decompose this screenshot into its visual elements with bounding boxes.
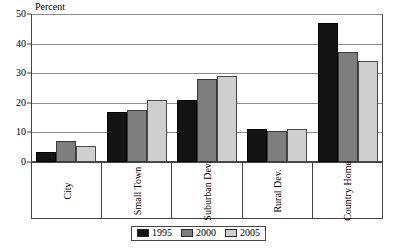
legend-swatch-1995 [137,229,149,237]
category-cell: Country Home [313,163,382,218]
y-tick-label-30: 30 [16,68,26,78]
y-tick-label-40: 40 [16,39,26,49]
y-tick-label-0: 0 [21,157,26,167]
bar[interactable] [247,129,267,162]
bar[interactable] [177,100,197,162]
legend-label: 2000 [196,228,216,238]
category-cell: City [32,163,102,218]
bar[interactable] [107,112,127,162]
category-label: Rural Dev. [272,169,283,212]
y-tick-label-50: 50 [16,9,26,19]
bar[interactable] [267,131,287,162]
bar[interactable] [147,100,167,162]
category-label: City [61,182,72,199]
bar[interactable] [36,152,56,162]
bar-group [313,14,383,162]
legend-item[interactable]: 2005 [225,228,260,238]
category-cell: Small Town [102,163,172,218]
legend-item[interactable]: 2000 [181,228,216,238]
bar[interactable] [217,76,237,162]
bar[interactable] [127,110,147,162]
y-axis-ticks: 01020304050 [0,14,31,162]
category-cell: Suburban Dev. [172,163,242,218]
bar[interactable] [76,146,96,162]
bar[interactable] [318,23,338,162]
category-label-boxes: CitySmall TownSuburban Dev.Rural Dev.Cou… [31,162,383,219]
bar-group [172,14,242,162]
bar[interactable] [56,141,76,162]
bar-groups [31,14,383,162]
legend-swatch-2000 [181,229,193,237]
bar[interactable] [358,61,378,162]
legend-label: 2005 [240,228,260,238]
legend-item[interactable]: 1995 [137,228,172,238]
chart-legend: 199520002005 [131,226,266,241]
legend-label: 1995 [152,228,172,238]
y-tick-label-10: 10 [16,127,26,137]
bar[interactable] [287,129,307,162]
y-axis-label: Percent [35,1,65,12]
y-tick-label-20: 20 [16,98,26,108]
category-cell: Rural Dev. [243,163,313,218]
bar[interactable] [338,52,358,162]
bar-group [242,14,312,162]
bar-group [101,14,171,162]
bar-group [31,14,101,162]
legend-swatch-2005 [225,229,237,237]
category-label: Country Home [342,161,353,221]
bar[interactable] [197,79,217,162]
category-label: Suburban Dev. [202,161,213,220]
category-label: Small Town [131,166,142,214]
